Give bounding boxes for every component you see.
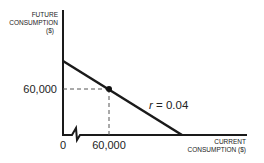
x-axis-title-line2: CONSUMPTION ($) [188,146,247,154]
x-tick-60000: 60,000 [92,139,126,151]
x-tick-origin: 0 [60,139,66,151]
r-value: = 0.04 [153,99,189,111]
y-axis-title-line2: CONSUMPTION [9,19,58,26]
y-axis-title-line3: ($) [46,27,54,35]
x-axis-title-line1: CURRENT [214,138,246,145]
endowment-point [106,86,112,92]
y-axis-title-line1: FUTURE [32,11,59,18]
interest-rate-label: r = 0.04 [149,99,189,111]
y-tick-60000: 60,000 [23,83,57,95]
budget-line [63,61,182,135]
intertemporal-budget-chart: FUTURE CONSUMPTION ($) 60,000 0 60,000 r… [0,0,264,163]
